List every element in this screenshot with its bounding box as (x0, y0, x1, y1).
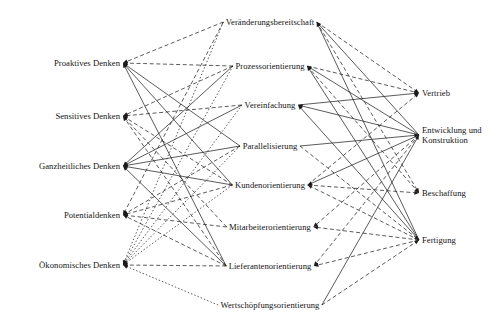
node-m3: Vereinfachung (245, 100, 296, 110)
node-m7: Lieferantenorientierung (229, 261, 312, 271)
node-label-line: Entwicklung und (422, 125, 482, 135)
node-r3: Beschaffung (422, 188, 466, 198)
node-l5: Ökonomisches Denken (39, 260, 120, 270)
node-label: Sensitives Denken (55, 111, 120, 121)
node-m4: Parallelisierung (243, 141, 298, 151)
node-label-line: Konstruktion (422, 135, 482, 145)
node-label: Mitarbeiterorientierung (229, 222, 311, 232)
diagram-canvas: Proaktives DenkenSensitives DenkenGanzhe… (0, 0, 503, 330)
node-label: Veränderungsbereitschaft (226, 17, 315, 27)
node-label: Parallelisierung (243, 141, 298, 151)
node-l1: Proaktives Denken (54, 58, 120, 68)
node-label: Vereinfachung (245, 100, 296, 110)
node-r4: Fertigung (422, 235, 456, 245)
node-m1: Veränderungsbereitschaft (226, 17, 315, 27)
node-label: Lieferantenorientierung (229, 261, 312, 271)
node-label: Kundenorientierung (235, 180, 305, 190)
node-m6: Mitarbeiterorientierung (229, 222, 311, 232)
node-r2: Entwicklung undKonstruktion (422, 125, 482, 145)
node-l2: Sensitives Denken (55, 111, 120, 121)
node-label: Ganzheitliches Denken (39, 161, 120, 171)
node-m8: Wertschöpfungsorientierung (221, 300, 320, 310)
node-label: Potentialdenken (64, 210, 120, 220)
node-m2: Prozessorientierung (235, 61, 304, 71)
node-label: Fertigung (422, 235, 456, 245)
node-layer: Proaktives DenkenSensitives DenkenGanzhe… (0, 0, 503, 330)
node-label: Beschaffung (422, 188, 466, 198)
node-label: Wertschöpfungsorientierung (221, 300, 320, 310)
node-label: Proaktives Denken (54, 58, 120, 68)
node-r1: Vertrieb (422, 88, 450, 98)
node-l4: Potentialdenken (64, 210, 120, 220)
node-l3: Ganzheitliches Denken (39, 161, 120, 171)
node-label: Ökonomisches Denken (39, 260, 120, 270)
node-label: Vertrieb (422, 88, 450, 98)
node-m5: Kundenorientierung (235, 180, 305, 190)
node-label: Prozessorientierung (235, 61, 304, 71)
